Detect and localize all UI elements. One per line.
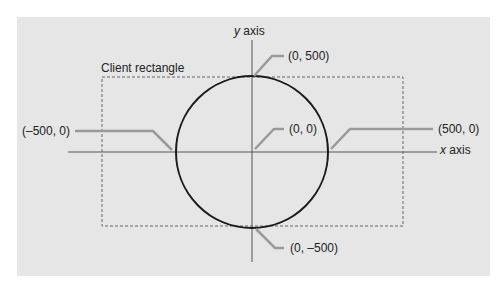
y-axis-label: y axis [234, 24, 265, 38]
leader-bottom-point [256, 229, 284, 248]
left-point-label: (–500, 0) [22, 124, 70, 138]
bottom-point-label: (0, –500) [290, 241, 338, 255]
leader-origin [255, 129, 284, 149]
x-axis-label: x axis [440, 143, 471, 157]
top-point-label: (0, 500) [288, 49, 329, 63]
y-axis-word: axis [240, 24, 265, 38]
leader-top-point [254, 56, 284, 76]
origin-point-label: (0, 0) [289, 122, 317, 136]
leader-left-point [75, 131, 172, 150]
leader-right-point [331, 129, 433, 149]
right-point-label: (500, 0) [438, 122, 479, 136]
coordinate-diagram [0, 0, 502, 287]
client-rectangle-label: Client rectangle [101, 61, 184, 75]
x-axis-word: axis [446, 143, 471, 157]
